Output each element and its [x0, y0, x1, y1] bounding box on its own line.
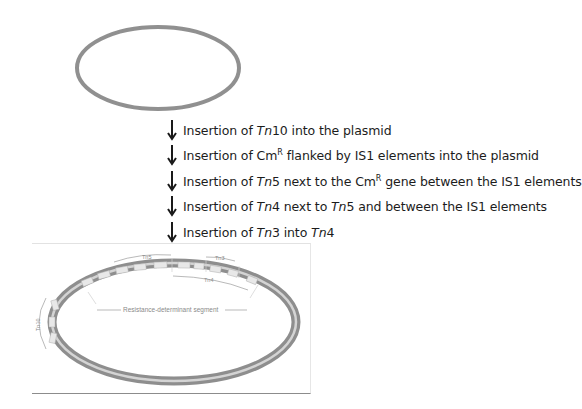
tn5-label: Tn5	[142, 254, 151, 260]
gene-blocks	[49, 262, 258, 344]
tn10-label: Tn10	[35, 318, 41, 331]
tn4-label: Tn4	[204, 277, 213, 283]
tn3-label: Tn3	[215, 255, 224, 261]
segment-label: Resistance-determinant segment	[123, 306, 219, 314]
